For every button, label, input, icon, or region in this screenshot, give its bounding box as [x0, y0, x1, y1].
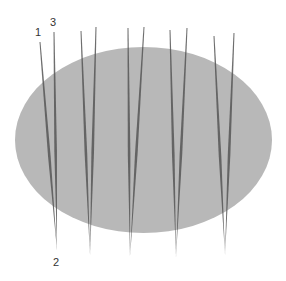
label-1: 1	[35, 26, 41, 38]
label-3: 3	[50, 16, 56, 28]
needle-ellipse-diagram: 1 3 2	[0, 0, 286, 281]
label-2: 2	[53, 256, 59, 268]
